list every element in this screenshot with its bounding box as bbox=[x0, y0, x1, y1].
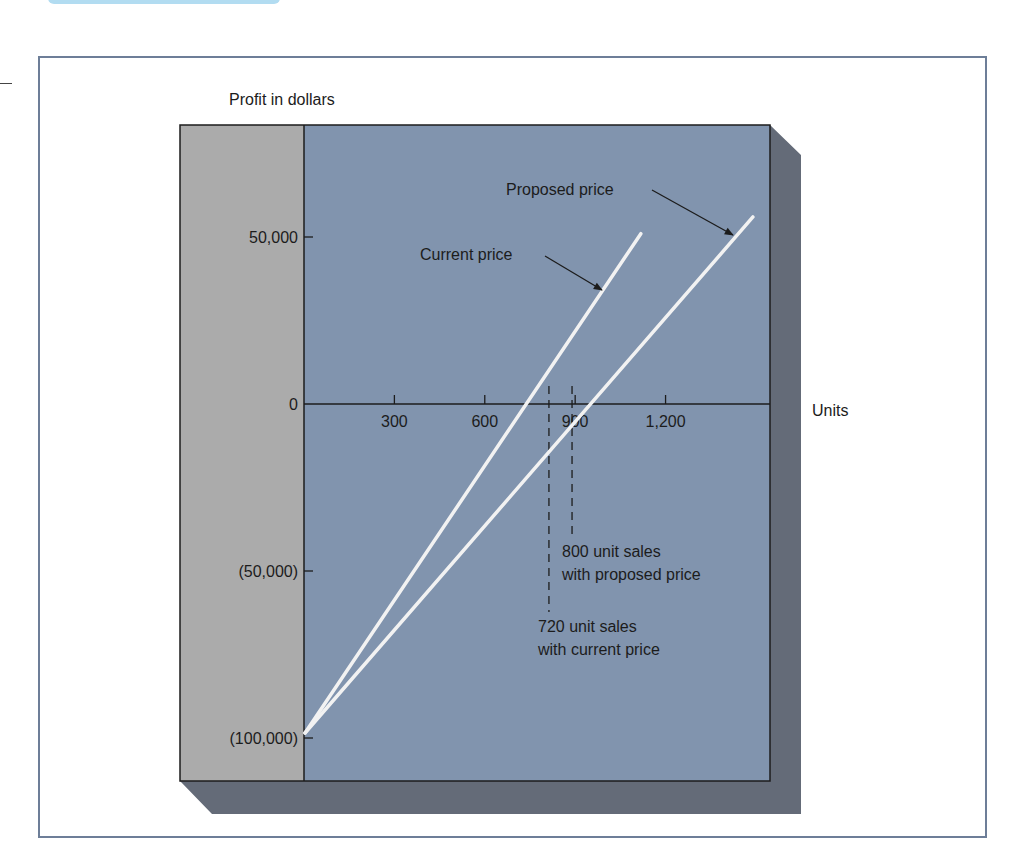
plot-area bbox=[304, 125, 770, 781]
proposed-price-label: Proposed price bbox=[506, 181, 614, 198]
y-tick-label: 50,000 bbox=[249, 229, 298, 246]
proposed-break-even-note-line2: with proposed price bbox=[561, 566, 701, 583]
y-tick-label: (100,000) bbox=[230, 730, 299, 747]
y-tick-label: 0 bbox=[289, 396, 298, 413]
x-tick-label: 300 bbox=[381, 413, 408, 430]
current-break-even-note-line1: 720 unit sales bbox=[538, 618, 637, 635]
x-axis-title: Units bbox=[812, 402, 848, 419]
current-price-label: Current price bbox=[420, 246, 513, 263]
y-tick-label: (50,000) bbox=[238, 563, 298, 580]
current-break-even-note-line2: with current price bbox=[537, 641, 660, 658]
proposed-break-even-note-line1: 800 unit sales bbox=[562, 543, 661, 560]
x-tick-label: 1,200 bbox=[646, 413, 686, 430]
x-tick-label: 600 bbox=[471, 413, 498, 430]
y-label-panel bbox=[180, 125, 304, 781]
y-axis-title: Profit in dollars bbox=[229, 91, 335, 108]
break-even-chart: 3006009001,200 50,0000(50,000)(100,000) … bbox=[0, 0, 1026, 866]
